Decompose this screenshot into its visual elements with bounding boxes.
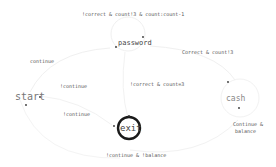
label-cash-balance-2: balance: [235, 128, 256, 134]
label-self-loop: !correct & count!3 & count:count-1: [82, 11, 184, 17]
node-start: start: [15, 91, 45, 102]
label-password-to-exit: !correct & count=3: [130, 81, 184, 87]
label-start-to-password: continue: [30, 58, 54, 64]
node-exit: exit: [120, 123, 142, 133]
node-password: password: [118, 39, 152, 47]
label-exit-to-start: !continue: [63, 111, 90, 117]
edge-cash-exit: [130, 120, 238, 152]
label-start-to-exit: !continue: [60, 83, 87, 89]
node-cash: cash: [226, 94, 245, 103]
edge-password-exit: [123, 52, 128, 118]
label-password-to-cash: Correct & count!3: [182, 49, 233, 55]
label-cash-balance-1: Continue &: [233, 121, 263, 127]
label-cash-to-start-bottom: !continue & !balance: [106, 152, 166, 158]
edge-exit-start: [20, 100, 120, 158]
